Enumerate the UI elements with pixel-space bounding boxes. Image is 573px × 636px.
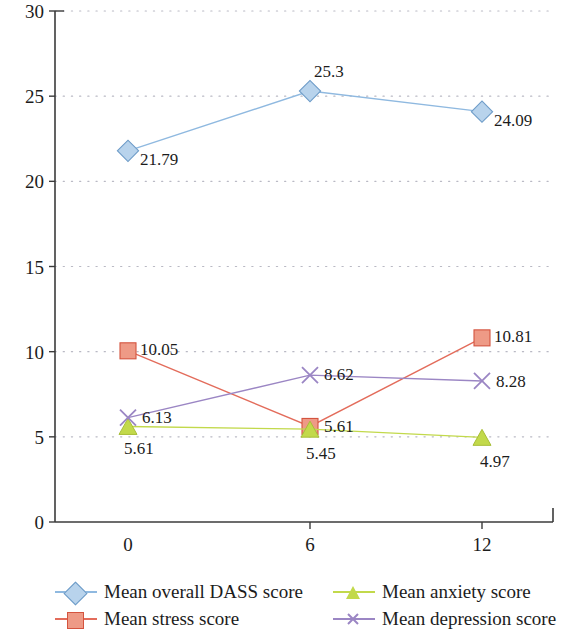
x-tick-label: 12 [473, 534, 492, 555]
legend-item-mean-depression-score[interactable]: Mean depression score [333, 605, 565, 632]
data-point-marker-square [120, 343, 136, 359]
data-point-value-label: 25.3 [314, 62, 344, 81]
y-tick-label: 5 [35, 427, 45, 448]
y-tick-label: 15 [25, 257, 44, 278]
data-point-labels: 21.7925.324.0910.055.6110.815.615.454.97… [124, 62, 532, 471]
data-point-value-label: 21.79 [140, 150, 178, 169]
data-point-marker-diamond [299, 80, 320, 101]
legend-item-mean-anxiety-score[interactable]: Mean anxiety score [333, 578, 565, 605]
data-point-value-label: 6.13 [142, 408, 172, 427]
legend-key-square-icon [55, 610, 97, 628]
legend-item-mean-overall-dass-score[interactable]: Mean overall DASS score [55, 578, 333, 605]
legend-key-x-icon [333, 610, 375, 628]
y-axis: 051015202530 [25, 1, 55, 533]
data-point-value-label: 5.61 [124, 439, 154, 458]
x-tick-label: 6 [305, 534, 315, 555]
y-tick-label: 10 [25, 342, 44, 363]
legend-label: Mean overall DASS score [104, 582, 303, 601]
gridlines [55, 11, 553, 437]
legend-label: Mean depression score [382, 609, 556, 628]
y-tick-label: 25 [25, 86, 44, 107]
y-tick-label: 0 [35, 512, 45, 533]
legend-key-diamond-icon [55, 583, 97, 601]
legend-label: Mean anxiety score [382, 582, 531, 601]
data-point-value-label: 4.97 [480, 452, 510, 471]
chart-legend: Mean overall DASS score Mean anxiety sco… [55, 578, 565, 632]
data-point-value-label: 8.28 [496, 372, 526, 391]
data-point-value-label: 10.05 [140, 340, 178, 359]
x-axis: 0612 [123, 522, 491, 555]
series-mean-depression-score [120, 367, 490, 425]
y-tick-label: 30 [25, 1, 44, 22]
chart-plot-area: 051015202530 0612 21.7925.324.0910.055.6… [0, 0, 573, 636]
data-point-marker-diamond [117, 140, 138, 161]
data-point-marker-square [474, 330, 490, 346]
data-point-marker-diamond [471, 101, 492, 122]
x-tick-label: 0 [123, 534, 133, 555]
data-point-value-label: 8.62 [324, 365, 354, 384]
legend-label: Mean stress score [104, 609, 239, 628]
data-series-group [117, 80, 492, 445]
data-point-value-label: 5.45 [306, 444, 336, 463]
y-tick-label: 20 [25, 171, 44, 192]
legend-key-triangle-icon [333, 583, 375, 601]
data-point-value-label: 10.81 [494, 327, 532, 346]
data-point-value-label: 24.09 [494, 111, 532, 130]
line-chart: 051015202530 0612 21.7925.324.0910.055.6… [0, 0, 573, 636]
legend-item-mean-stress-score[interactable]: Mean stress score [55, 605, 333, 632]
data-point-value-label: 5.61 [324, 417, 354, 436]
